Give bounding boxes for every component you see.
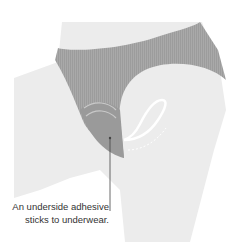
underwear-illustration: An underside adhesive sticks to underwea… (0, 0, 242, 242)
leader-dot (109, 137, 111, 139)
caption-line-2: sticks to underwear. (12, 213, 109, 226)
caption-line-1: An underside adhesive (12, 200, 109, 213)
caption: An underside adhesive sticks to underwea… (12, 200, 109, 226)
